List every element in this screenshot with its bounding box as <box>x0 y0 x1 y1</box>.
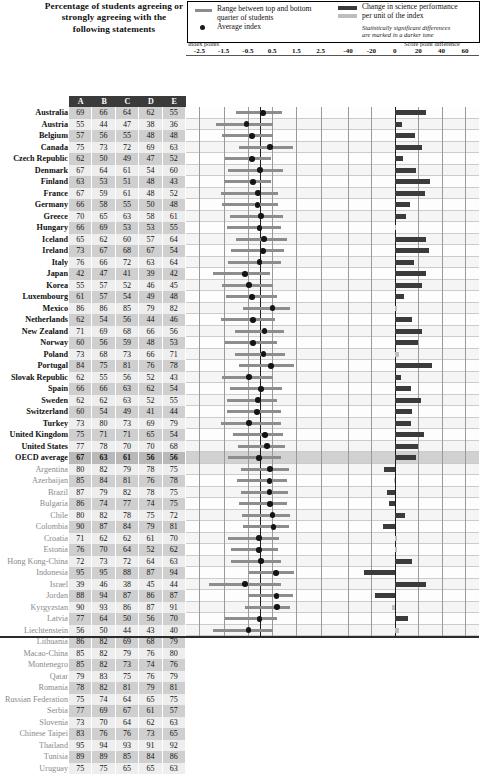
score-difference-chart <box>334 107 479 636</box>
table-row[interactable]: Jordan8894878687 <box>0 590 186 602</box>
country-label: Colombia <box>36 521 68 533</box>
value-cell: 89 <box>92 751 115 763</box>
value-cells: 8894878687 <box>69 590 186 602</box>
range-bar <box>245 606 290 609</box>
table-row[interactable]: Portugal8475817678 <box>0 360 186 372</box>
table-row[interactable]: Luxembourg6157544948 <box>0 291 186 303</box>
table-row[interactable]: Turkey7380736979 <box>0 418 186 430</box>
country-label: Spain <box>48 383 68 395</box>
table-row[interactable]: Israel3946384544 <box>0 579 186 591</box>
value-cell: 58 <box>92 199 115 211</box>
table-row[interactable]: Qatar7983757679 <box>0 671 186 683</box>
average-index-dot <box>256 455 262 461</box>
table-row[interactable]: Switzerland6054494144 <box>0 406 186 418</box>
bottom-rule <box>0 636 479 638</box>
table-row[interactable]: Japan4247413942 <box>0 268 186 280</box>
value-cell: 65 <box>139 763 162 774</box>
table-row[interactable]: Estonia7670645262 <box>0 544 186 556</box>
table-row[interactable]: Norway6056594853 <box>0 337 186 349</box>
value-cells: 8584817678 <box>69 475 186 487</box>
table-row[interactable]: Ireland7367686754 <box>0 245 186 257</box>
table-row[interactable]: Chinese Taipei8376767365 <box>0 728 186 740</box>
left-gridline <box>296 107 297 636</box>
table-row[interactable]: Hong Kong-China7273726463 <box>0 556 186 568</box>
table-row[interactable]: Bulgaria8674777475 <box>0 498 186 510</box>
change-bar <box>395 145 422 150</box>
table-row[interactable]: Canada7573726963 <box>0 142 186 154</box>
value-cell: 77 <box>69 705 92 717</box>
value-cell: 78 <box>163 475 186 487</box>
table-row[interactable]: Macao-China8582797680 <box>0 648 186 660</box>
value-cell: 79 <box>92 487 115 499</box>
table-row[interactable]: Liechtenstein5650444340 <box>0 625 186 637</box>
table-row[interactable]: Russian Federation7574646575 <box>0 694 186 706</box>
value-cell: 71 <box>92 429 115 441</box>
table-row[interactable]: Azerbaijan8584817678 <box>0 475 186 487</box>
value-cell: 63 <box>163 142 186 154</box>
country-label: Argentina <box>35 464 68 476</box>
table-row[interactable]: Czech Republic6250494752 <box>0 153 186 165</box>
table-row[interactable]: OECD average6763615656 <box>0 452 186 464</box>
average-index-dot <box>254 409 260 415</box>
table-row[interactable]: Netherlands6254564446 <box>0 314 186 326</box>
average-index-dot <box>255 190 261 196</box>
value-cell: 68 <box>92 349 115 361</box>
table-row[interactable]: Serbia7769676157 <box>0 705 186 717</box>
table-row[interactable]: Argentina8082797875 <box>0 464 186 476</box>
table-row[interactable]: Latvia7764505670 <box>0 613 186 625</box>
table-row[interactable]: Sweden6262635255 <box>0 395 186 407</box>
table-row[interactable]: Thailand9594939192 <box>0 740 186 752</box>
value-cell: 85 <box>116 303 139 315</box>
table-row[interactable]: Chile8082787572 <box>0 510 186 522</box>
table-row[interactable]: Belgium5756554848 <box>0 130 186 142</box>
table-row[interactable]: Uruguay7575656563 <box>0 763 186 774</box>
table-row[interactable]: Croatia7162626170 <box>0 533 186 545</box>
range-bar <box>222 203 278 206</box>
range-bar <box>237 479 287 482</box>
value-cell: 46 <box>163 314 186 326</box>
table-row[interactable]: France6759614852 <box>0 188 186 200</box>
value-cell: 53 <box>139 222 162 234</box>
table-row[interactable]: Montenegro8582737476 <box>0 659 186 671</box>
table-row[interactable]: Italy7666726364 <box>0 257 186 269</box>
table-row[interactable]: Iceland6562605764 <box>0 234 186 246</box>
table-row[interactable]: Indonesia9595888794 <box>0 567 186 579</box>
table-row[interactable]: New Zealand7169686656 <box>0 326 186 338</box>
table-row[interactable]: Brazil8779827875 <box>0 487 186 499</box>
table-row[interactable]: Hungary6669535355 <box>0 222 186 234</box>
value-cell: 76 <box>69 544 92 556</box>
table-row[interactable]: Denmark6764615460 <box>0 165 186 177</box>
table-row[interactable]: Greece7065635861 <box>0 211 186 223</box>
table-row[interactable]: Korea5557524645 <box>0 280 186 292</box>
table-row[interactable]: Spain6666636254 <box>0 383 186 395</box>
value-cell: 50 <box>92 153 115 165</box>
table-row[interactable]: Poland7368736671 <box>0 349 186 361</box>
value-cell: 64 <box>92 165 115 177</box>
table-row[interactable]: Slovenia7370646263 <box>0 717 186 729</box>
left-axis-tick: -1.5 <box>211 47 237 55</box>
table-row[interactable]: Romania7882817981 <box>0 682 186 694</box>
table-row[interactable]: Austria5544473836 <box>0 119 186 131</box>
table-row[interactable]: United Kingdom7571716554 <box>0 429 186 441</box>
range-bar <box>230 387 282 390</box>
table-row[interactable]: Mexico8686857982 <box>0 303 186 315</box>
table-row[interactable]: Australia6966646255 <box>0 107 186 119</box>
table-row[interactable]: Tunisia8989858486 <box>0 751 186 763</box>
value-cell: 62 <box>69 153 92 165</box>
table-row[interactable]: Kyrgyzstan9093868791 <box>0 602 186 614</box>
average-index-dot <box>267 478 273 484</box>
table-row[interactable]: Germany6658555048 <box>0 199 186 211</box>
value-cell: 78 <box>92 441 115 453</box>
table-row[interactable]: Slovak Republic6255565243 <box>0 372 186 384</box>
value-cell: 62 <box>69 314 92 326</box>
value-cell: 85 <box>69 659 92 671</box>
value-cell: 44 <box>139 314 162 326</box>
table-row[interactable]: United States7778707068 <box>0 441 186 453</box>
value-cells: 8779827875 <box>69 487 186 499</box>
country-label: Austria <box>42 119 68 131</box>
table-row[interactable]: Colombia9087847981 <box>0 521 186 533</box>
table-row[interactable]: Finland6353514843 <box>0 176 186 188</box>
change-bar <box>395 329 422 334</box>
column-header-d: D <box>139 96 162 107</box>
value-cell: 60 <box>69 406 92 418</box>
